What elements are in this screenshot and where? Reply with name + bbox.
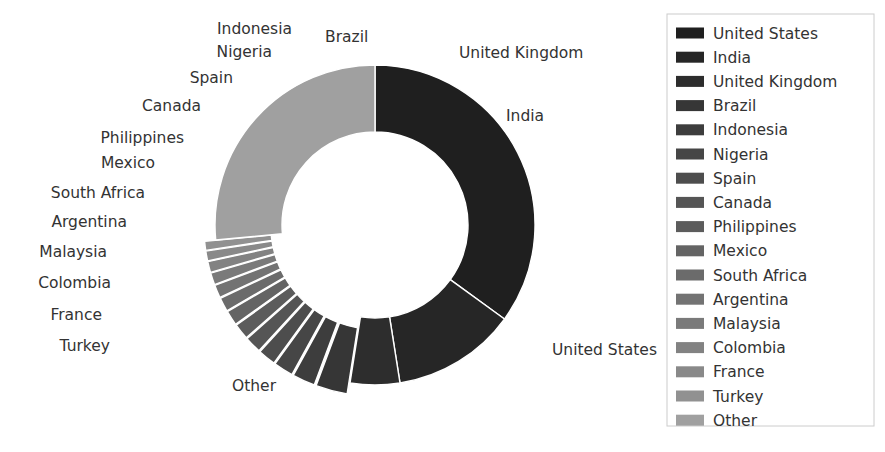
legend-swatch[interactable]	[676, 391, 704, 402]
legend-swatch[interactable]	[676, 245, 704, 256]
pie-slice-label: Malaysia	[39, 243, 107, 261]
pie-slice-label: United Kingdom	[459, 44, 583, 62]
pie-slice-label: Colombia	[38, 274, 111, 292]
pie-slice[interactable]	[375, 65, 535, 319]
pie-slice-label: France	[50, 306, 102, 324]
legend-label[interactable]: Colombia	[713, 339, 786, 357]
legend-label[interactable]: Indonesia	[713, 121, 788, 139]
legend-label[interactable]: United States	[713, 25, 818, 43]
pie-slice-label: Argentina	[51, 213, 127, 231]
donut-chart-figure: United StatesIndiaUnited KingdomBrazilIn…	[0, 0, 885, 452]
pie-slice-label: Philippines	[100, 129, 184, 147]
legend-swatch[interactable]	[676, 197, 704, 208]
legend-swatch[interactable]	[676, 149, 704, 160]
legend-swatch[interactable]	[676, 294, 704, 305]
pie-slice-label: Turkey	[59, 337, 110, 355]
legend-label[interactable]: United Kingdom	[713, 73, 837, 91]
legend-swatch[interactable]	[676, 318, 704, 329]
legend-label[interactable]: Brazil	[713, 97, 756, 115]
legend-label[interactable]: South Africa	[713, 267, 807, 285]
legend-swatch[interactable]	[676, 100, 704, 111]
legend-swatch[interactable]	[676, 342, 704, 353]
legend-swatch[interactable]	[676, 270, 704, 281]
pie-slice-label: Brazil	[325, 28, 368, 46]
legend-swatch[interactable]	[676, 173, 704, 184]
legend-label[interactable]: Mexico	[713, 242, 767, 260]
pie-slice-label: Spain	[190, 69, 233, 87]
pie-slice-label: South Africa	[51, 184, 145, 202]
legend-swatch[interactable]	[676, 28, 704, 39]
legend-label[interactable]: France	[713, 363, 765, 381]
legend-label[interactable]: Argentina	[713, 291, 789, 309]
legend-label[interactable]: Canada	[713, 194, 772, 212]
legend-label[interactable]: Philippines	[713, 218, 797, 236]
pie-slice-label: Indonesia	[217, 20, 292, 38]
legend-label[interactable]: Malaysia	[713, 315, 781, 333]
legend-label[interactable]: Spain	[713, 170, 756, 188]
legend-swatch[interactable]	[676, 366, 704, 377]
pie-slice-label: Canada	[142, 97, 201, 115]
legend-label[interactable]: India	[713, 49, 751, 67]
chart-legend: United StatesIndiaUnited KingdomBrazilIn…	[667, 14, 874, 430]
legend-label[interactable]: Nigeria	[713, 146, 768, 164]
pie-slice-label: Nigeria	[217, 43, 272, 61]
pie-slice-label: India	[506, 107, 544, 125]
legend-swatch[interactable]	[676, 124, 704, 135]
legend-label[interactable]: Other	[713, 412, 758, 430]
legend-swatch[interactable]	[676, 221, 704, 232]
legend-swatch[interactable]	[676, 415, 704, 426]
legend-swatch[interactable]	[676, 76, 704, 87]
pie-slice-label: United States	[552, 341, 657, 359]
pie-wedges-group	[205, 65, 535, 394]
legend-label[interactable]: Turkey	[712, 388, 763, 406]
pie-slice-label: Other	[232, 377, 277, 395]
donut-chart-svg: United StatesIndiaUnited KingdomBrazilIn…	[0, 0, 885, 452]
pie-slice-label: Mexico	[101, 154, 155, 172]
legend-swatch[interactable]	[676, 52, 704, 63]
pie-slice[interactable]	[215, 65, 375, 240]
